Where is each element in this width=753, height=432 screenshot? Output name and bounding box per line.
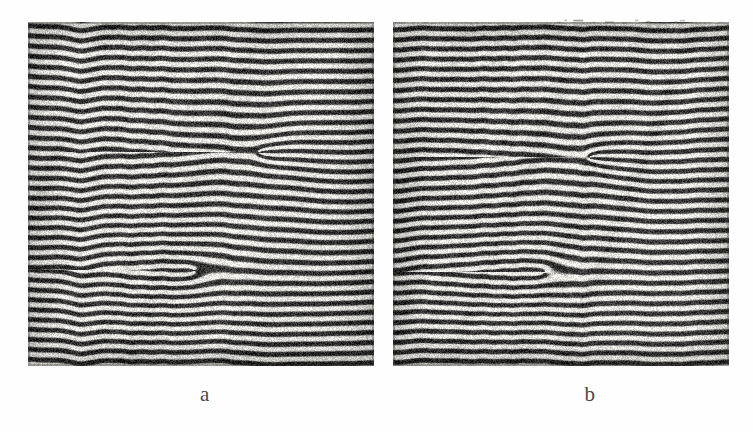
interferogram-panel-a bbox=[28, 22, 374, 366]
dotted-marks-above-panel-b bbox=[555, 14, 685, 28]
figure-root: a b bbox=[0, 0, 753, 432]
interferogram-canvas-a bbox=[28, 22, 374, 366]
interferogram-canvas-b bbox=[393, 22, 729, 366]
interferogram-panel-b bbox=[393, 22, 729, 366]
panel-label-b: b bbox=[570, 382, 610, 407]
panel-label-a: a bbox=[185, 382, 225, 407]
